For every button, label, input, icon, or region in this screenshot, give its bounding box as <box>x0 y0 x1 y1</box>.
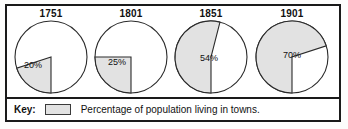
pie-svg-1751 <box>14 20 88 94</box>
pie-percent-label: 25% <box>108 57 126 67</box>
chart-year-label: 1751 <box>11 8 91 19</box>
pie-charts-row: 1751 20% 1801 25% <box>7 6 339 97</box>
pie-graphic: 20% <box>14 20 88 94</box>
pie-chart-1751: 1751 20% <box>11 8 91 97</box>
pie-graphic: 25% <box>94 20 168 94</box>
pie-graphic: 54% <box>174 20 248 94</box>
pie-graphic: 70% <box>255 20 329 94</box>
pie-chart-1901: 1901 70% <box>252 8 332 97</box>
key-description: Percentage of population living in towns… <box>81 104 260 115</box>
pie-percent-label: 20% <box>24 60 42 70</box>
pie-svg-1801 <box>94 20 168 94</box>
chart-year-label: 1851 <box>171 8 251 19</box>
pie-chart-1851: 1851 54% <box>171 8 251 97</box>
pie-percent-label: 70% <box>283 50 301 60</box>
pie-chart-1801: 1801 25% <box>91 8 171 97</box>
figure-frame: 1751 20% 1801 25% <box>5 4 341 122</box>
shaded-swatch-icon <box>45 104 71 115</box>
pie-percent-label: 54% <box>200 53 218 63</box>
chart-year-label: 1801 <box>91 8 171 19</box>
chart-year-label: 1901 <box>252 8 332 19</box>
key-row: Key: Percentage of population living in … <box>7 99 339 120</box>
key-label: Key: <box>14 104 36 115</box>
population-pie-chart-figure: 1751 20% 1801 25% <box>0 0 348 129</box>
